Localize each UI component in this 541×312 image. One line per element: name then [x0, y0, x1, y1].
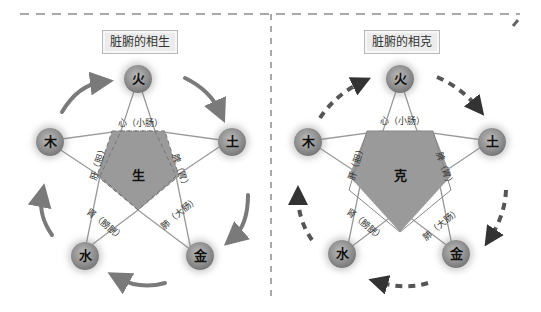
- left-node-wood: 木: [36, 128, 64, 156]
- arrow-fire-to-earth: [185, 78, 220, 112]
- arrow-wood-to-earth: [320, 82, 362, 118]
- arrow-metal-to-water: [118, 278, 165, 286]
- left-center-label: 生: [132, 165, 145, 184]
- left-node-metal: 金: [186, 242, 214, 270]
- right-center-label: 克: [394, 165, 407, 184]
- arrow-wood-to-fire: [62, 82, 102, 112]
- arrow-earth-to-metal: [233, 195, 248, 238]
- right-node-earth: 土: [478, 128, 506, 156]
- corner-mark: [513, 20, 518, 26]
- right-node-metal: 金: [442, 240, 470, 268]
- left-node-earth: 土: [218, 128, 246, 156]
- right-node-water: 水: [328, 240, 356, 268]
- right-node-wood: 木: [294, 128, 322, 156]
- left-title: 脏腑的相生: [102, 30, 178, 54]
- left-node-fire: 火: [124, 65, 152, 93]
- right-label-heart: 心（小肠）: [380, 114, 425, 127]
- arrow-fire-to-metal: [437, 77, 478, 108]
- left-label-heart: 心（小肠）: [118, 116, 163, 129]
- left-node-water: 水: [71, 242, 99, 270]
- wuxing-diagram: 脏腑的相生 生 火 土 金 水 木 心（小肠） 脾（胃） 肺（大肠） 肾（膀胱）…: [0, 0, 541, 312]
- right-title: 脏腑的相克: [364, 30, 440, 54]
- right-node-fire: 火: [386, 65, 414, 93]
- arrow-water-to-fire: [298, 195, 312, 240]
- arrow-metal-to-wood: [378, 282, 428, 286]
- arrow-earth-to-water: [490, 190, 506, 238]
- arrow-water-to-wood: [41, 195, 52, 235]
